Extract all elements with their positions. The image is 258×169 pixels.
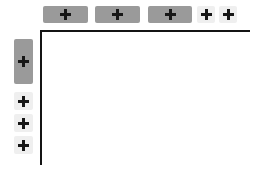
plot-area[interactable] [42, 32, 250, 165]
add-row-button-3[interactable] [14, 114, 33, 132]
add-column-button-5[interactable] [219, 6, 237, 23]
plus-icon [112, 9, 123, 20]
add-row-button-2[interactable] [14, 92, 33, 110]
plus-icon [223, 9, 234, 20]
add-column-button-1[interactable] [43, 6, 88, 23]
plus-icon [201, 9, 212, 20]
add-row-button-1[interactable] [14, 39, 33, 84]
plus-icon [18, 140, 29, 151]
add-row-button-4[interactable] [14, 136, 33, 154]
add-column-button-4[interactable] [197, 6, 215, 23]
add-column-button-2[interactable] [95, 6, 140, 23]
add-column-button-3[interactable] [148, 6, 192, 23]
plus-icon [165, 9, 176, 20]
plus-icon [18, 118, 29, 129]
plus-icon [18, 56, 29, 67]
plot-builder-canvas [0, 0, 258, 169]
plus-icon [60, 9, 71, 20]
plus-icon [18, 96, 29, 107]
